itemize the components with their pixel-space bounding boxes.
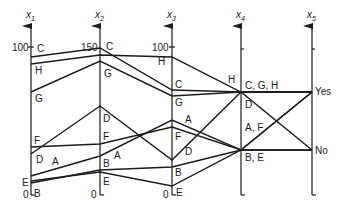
x1-label-d: D [36, 154, 43, 165]
x1-label-e: E [22, 177, 29, 188]
x1-max-label: 100 [12, 42, 29, 53]
x2-max-label: 150 [81, 42, 98, 53]
x3-label-a: A [185, 114, 192, 125]
x3-label-h: H [158, 56, 165, 67]
x3-max-label: 100 [152, 42, 169, 53]
axis-label-x3: x3 [166, 9, 176, 22]
x2-label-a: A [114, 150, 121, 161]
x1-label-a: A [52, 156, 59, 167]
x1-label-f: F [34, 135, 40, 146]
x5-label-no: No [315, 145, 328, 156]
x3-label-g: G [175, 97, 183, 108]
x2-label-d: D [103, 113, 110, 124]
x1-label-h: H [35, 65, 42, 76]
x2-label-g: G [104, 68, 112, 79]
x3-label-c: C [175, 79, 182, 90]
x4-label-h: H [228, 74, 235, 85]
parallel-coordinates-diagram: x1 x2 x3 x4 x5 100 150 100 0 0 0 C H G F… [0, 0, 342, 206]
x3-label-d: D [185, 146, 192, 157]
x4-group-d: D [245, 99, 252, 110]
axis-x5 [312, 26, 316, 195]
x1-min-label: 0 [23, 189, 29, 200]
axis-label-x5: x5 [306, 9, 316, 22]
x1-label-g: G [35, 93, 43, 104]
axis-label-x2: x2 [94, 9, 104, 22]
x4-group-cgh: C, G, H [245, 80, 278, 91]
x3-label-b: B [175, 167, 182, 178]
x2-label-e: E [103, 176, 110, 187]
x3-label-e: E [176, 187, 183, 198]
x4-group-af: A, F [245, 122, 263, 133]
x4-group-be: B, E [245, 152, 264, 163]
x2-label-b: B [103, 158, 110, 169]
x1-label-b: B [34, 188, 41, 199]
x5-label-yes: Yes [315, 86, 331, 97]
x3-min-label: 0 [163, 189, 169, 200]
x2-label-f: F [103, 131, 109, 142]
x1-label-c: C [37, 43, 44, 54]
x2-label-c: C [106, 41, 113, 52]
x2-min-label: 0 [91, 189, 97, 200]
axis-label-x1: x1 [25, 9, 35, 22]
axis-x1 [28, 26, 35, 195]
x3-label-f: F [175, 131, 181, 142]
axis-x4 [241, 26, 245, 195]
axis-label-x4: x4 [235, 9, 245, 22]
